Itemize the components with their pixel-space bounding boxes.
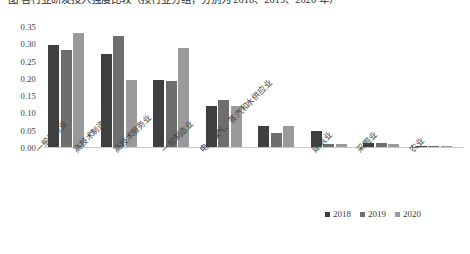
y-tick-label: 0.35: [21, 23, 36, 32]
legend-label: 2020: [403, 210, 421, 219]
legend-label: 2019: [368, 210, 386, 219]
y-tick-label: 0.20: [21, 74, 36, 83]
legend-item-2020[interactable]: 2020: [395, 210, 421, 219]
y-tick-label: 0.05: [21, 126, 36, 135]
bar-chart: 图 各行业研发投入强度比较（按行业分组，分别为 2018、2019、2020 年…: [0, 0, 470, 254]
figure-caption: 图 各行业研发投入强度比较（按行业分组，分别为 2018、2019、2020 年…: [8, 0, 339, 6]
y-tick-label: 0.15: [21, 92, 36, 101]
legend-item-2019[interactable]: 2019: [360, 210, 386, 219]
legend-item-2018[interactable]: 2018: [325, 210, 351, 219]
bar-2019: [428, 146, 439, 147]
y-tick-label: 0.25: [21, 57, 36, 66]
y-tick-label: 0.30: [21, 40, 36, 49]
legend-swatch-icon: [395, 212, 400, 217]
legend-swatch-icon: [325, 212, 330, 217]
bar-group: [311, 20, 347, 147]
legend-swatch-icon: [360, 212, 365, 217]
bar-2018: [258, 126, 269, 147]
bar-group: [363, 20, 399, 147]
bar-2020: [441, 146, 452, 147]
bar-2018: [153, 80, 164, 147]
bar-2020: [336, 144, 347, 147]
bar-2019: [113, 36, 124, 147]
bar-2020: [388, 144, 399, 147]
bar-2019: [61, 50, 72, 147]
figure-caption-strip: 图 各行业研发投入强度比较（按行业分组，分别为 2018、2019、2020 年…: [0, 0, 470, 9]
bar-group: [416, 20, 452, 147]
bar-2018: [101, 54, 112, 147]
bar-2019: [376, 143, 387, 147]
bar-2020: [73, 33, 84, 147]
legend-label: 2018: [333, 210, 351, 219]
y-tick-label: 0.10: [21, 109, 36, 118]
plot-area: [44, 20, 464, 148]
bar-2019: [271, 133, 282, 147]
bar-2020: [283, 126, 294, 147]
y-axis-tick-labels: 0.350.300.250.200.150.100.050.00: [0, 20, 42, 148]
chart-legend: 201820192020: [325, 210, 421, 219]
